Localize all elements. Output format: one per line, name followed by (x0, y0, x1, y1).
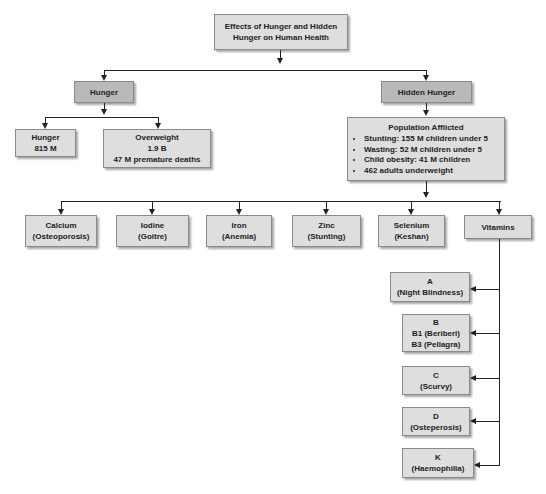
deficiency-name: Vitamins (481, 222, 514, 233)
deficiency-disease: (Stunting) (308, 231, 346, 242)
connector (476, 378, 499, 379)
hidden-hunger-node: Hidden Hunger (381, 81, 472, 103)
connector (411, 201, 412, 209)
vitamin-b-node: B B1 (Beriberi) B3 (Pellagra) (402, 314, 470, 352)
vitamin-disease: (Haemophilia) (412, 463, 465, 474)
population-list: Stunting: 155 M children under 5 Wasting… (354, 134, 488, 176)
title-line-1: Effects of Hunger and Hidden (225, 21, 337, 32)
vitamin-d-node: D (Osteperosis) (402, 407, 470, 436)
hunger-count-line-1: Hunger (32, 132, 60, 143)
root-node-title: Effects of Hunger and Hidden Hunger on H… (214, 14, 348, 50)
population-item: Child obesity: 41 M children (364, 155, 488, 166)
vitamin-disease: (Night Blindness) (397, 287, 463, 298)
connector (476, 333, 499, 334)
vitamin-name: D (433, 411, 439, 422)
population-item: Wasting: 52 M children under 5 (364, 145, 488, 156)
vitamin-k-node: K (Haemophilia) (402, 448, 474, 478)
connector (499, 201, 500, 209)
iodine-node: Iodine (Goitre) (116, 215, 189, 247)
arrow-down-icon (277, 58, 283, 64)
population-item: Stunting: 155 M children under 5 (364, 134, 488, 145)
calcium-node: Calcium (Osteoporosis) (25, 215, 97, 247)
deficiency-name: Iron (231, 220, 246, 231)
zinc-node: Zinc (Stunting) (292, 215, 361, 247)
deficiency-disease: (Goitre) (138, 231, 167, 242)
connector (104, 70, 427, 71)
population-afflicted-node: Population Afflicted Stunting: 155 M chi… (347, 117, 505, 181)
vitamin-disease: B1 (Beriberi) (412, 328, 460, 339)
hunger-count-node: Hunger 815 M (15, 129, 76, 157)
arrow-down-icon (423, 192, 429, 198)
population-title: Population Afflicted (388, 122, 463, 133)
deficiency-disease: (Keshan) (394, 231, 428, 242)
deficiency-name: Iodine (141, 220, 165, 231)
hunger-node: Hunger (74, 81, 134, 103)
vitamin-disease: (Osteperosis) (410, 422, 462, 433)
title-line-2: Hunger on Human Health (233, 32, 329, 43)
overweight-line-1: Overweight (135, 132, 179, 143)
population-item: 462 adults underweight (364, 166, 488, 177)
iron-node: Iron (Anemia) (206, 215, 272, 247)
deficiency-name: Selenium (394, 220, 430, 231)
hidden-hunger-label: Hidden Hunger (398, 87, 455, 98)
vitamin-name: A (427, 276, 433, 287)
overweight-node: Overweight 1.9 B 47 M premature deaths (103, 129, 211, 168)
vitamin-name: C (433, 370, 439, 381)
vitamin-disease: (Scurvy) (420, 381, 452, 392)
connector (480, 465, 500, 466)
vitamins-node: Vitamins (464, 215, 532, 239)
arrow-left-icon (470, 286, 476, 292)
arrow-down-icon (101, 109, 107, 115)
arrow-left-icon (470, 418, 476, 424)
hunger-label: Hunger (90, 87, 118, 98)
deficiency-name: Calcium (45, 220, 76, 231)
connector (239, 201, 240, 209)
vitamin-disease: B3 (Pellagra) (412, 339, 461, 350)
arrow-left-icon (470, 375, 476, 381)
connector (61, 201, 501, 202)
connector (326, 201, 327, 209)
overweight-line-2: 1.9 B (147, 143, 166, 154)
connector (45, 117, 158, 118)
hunger-count-line-2: 815 M (34, 143, 56, 154)
vitamin-name: B (433, 317, 439, 328)
vitamin-c-node: C (Scurvy) (402, 366, 470, 395)
connector (499, 239, 500, 466)
connector (476, 289, 499, 290)
connector (61, 201, 62, 209)
selenium-node: Selenium (Keshan) (378, 215, 445, 247)
arrow-left-icon (474, 462, 480, 468)
connector (152, 201, 153, 209)
deficiency-disease: (Osteoporosis) (33, 231, 90, 242)
arrow-down-icon (423, 110, 429, 116)
connector (476, 421, 499, 422)
vitamin-name: K (435, 452, 441, 463)
deficiency-disease: (Anemia) (222, 231, 256, 242)
overweight-line-3: 47 M premature deaths (113, 154, 200, 165)
arrow-left-icon (470, 330, 476, 336)
deficiency-name: Zinc (318, 220, 334, 231)
vitamin-a-node: A (Night Blindness) (390, 272, 470, 302)
